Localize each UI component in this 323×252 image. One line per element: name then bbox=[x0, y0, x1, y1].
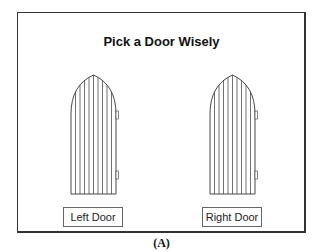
left-door-button[interactable]: Left Door bbox=[63, 207, 123, 227]
page-title: Pick a Door Wisely bbox=[0, 34, 323, 49]
door-hinge-icon bbox=[116, 111, 119, 119]
left-door[interactable] bbox=[68, 74, 120, 196]
door-hinge-icon bbox=[116, 171, 119, 179]
door-hinge-icon bbox=[255, 171, 258, 179]
door-icon bbox=[68, 74, 120, 196]
door-icon bbox=[207, 74, 259, 196]
right-door-button[interactable]: Right Door bbox=[202, 207, 262, 227]
figure-caption: (A) bbox=[0, 236, 323, 251]
right-door[interactable] bbox=[207, 74, 259, 196]
door-hinge-icon bbox=[255, 111, 258, 119]
